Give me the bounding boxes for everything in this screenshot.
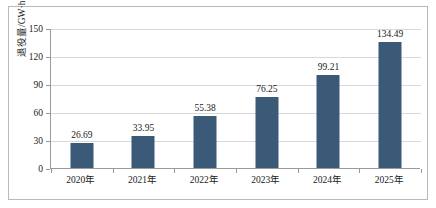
x-tick-label: 2024年 <box>297 172 359 186</box>
x-tick-label: 2022年 <box>173 172 235 186</box>
x-tick-label: 2020年 <box>50 172 112 186</box>
x-tick-label: 2021年 <box>112 172 174 186</box>
x-tick-mark <box>421 169 422 173</box>
x-axis-labels: 2020年2021年2022年2023年2024年2025年 <box>50 0 420 208</box>
x-tick-label: 2023年 <box>235 172 297 186</box>
chart-figure: 退役量/GW·h 26.6933.9555.3876.2599.21134.49… <box>0 0 436 208</box>
y-axis-title: 退役量/GW·h <box>14 0 28 57</box>
x-tick-label: 2025年 <box>358 172 420 186</box>
